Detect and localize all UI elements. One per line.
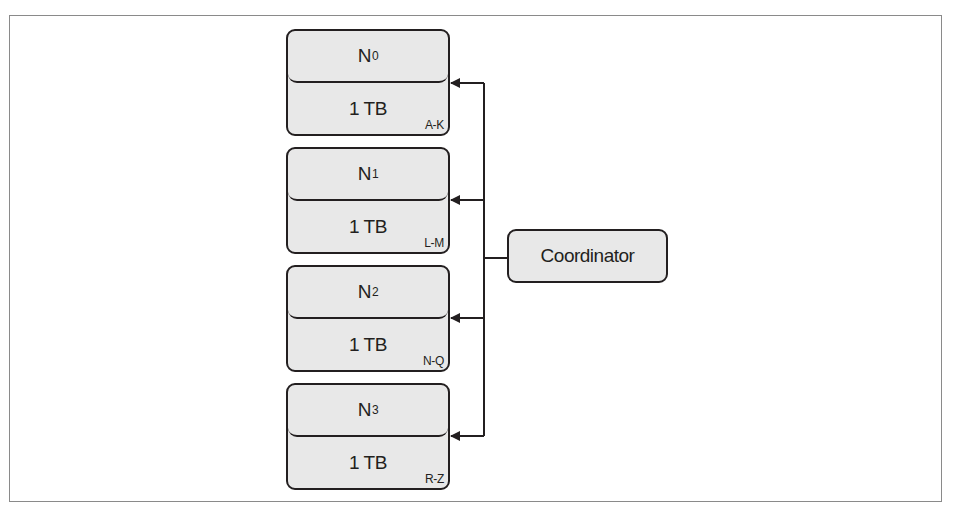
node-n1: N1 1 TB L-M [286, 147, 450, 254]
node-key-range: A-K [425, 118, 444, 132]
node-n3: N3 1 TB R-Z [286, 383, 450, 490]
node-label: N1 [288, 149, 448, 201]
node-label: N2 [288, 267, 448, 319]
node-n0: N0 1 TB A-K [286, 29, 450, 136]
node-key-range: L-M [424, 236, 444, 250]
node-label: N0 [288, 31, 448, 83]
node-label: N3 [288, 385, 448, 437]
coordinator-box: Coordinator [507, 229, 668, 283]
connector-lines [0, 0, 954, 515]
node-key-range: R-Z [425, 472, 444, 486]
node-key-range: N-Q [423, 354, 444, 368]
node-n2: N2 1 TB N-Q [286, 265, 450, 372]
